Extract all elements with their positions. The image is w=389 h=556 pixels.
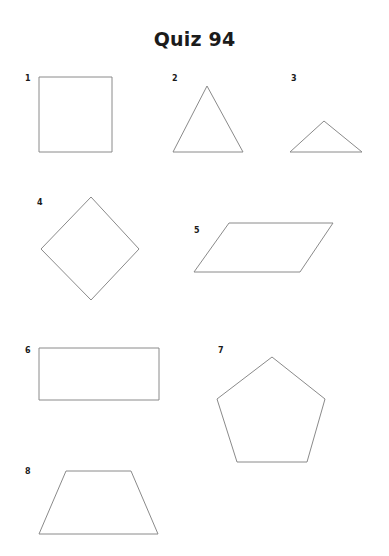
shape-square	[39, 77, 112, 152]
shape-triangle-equilateral	[173, 86, 243, 152]
shape-number-label-5: 5	[194, 227, 200, 235]
shape-number-label-6: 6	[25, 347, 31, 355]
shape-rhombus-diamond	[41, 197, 139, 300]
shape-number-label-1: 1	[25, 75, 31, 83]
shape-rectangle	[39, 348, 159, 400]
shape-number-label-8: 8	[25, 468, 31, 476]
shape-number-label-2: 2	[172, 75, 178, 83]
quiz-worksheet: Quiz 94 1 2 3 4 5 6 7 8	[0, 0, 389, 556]
shape-canvas	[0, 0, 389, 556]
shape-number-label-3: 3	[291, 75, 297, 83]
shape-parallelogram	[194, 223, 333, 272]
shape-trapezoid	[39, 471, 158, 534]
shape-pentagon	[217, 357, 325, 462]
shape-triangle-obtuse-wide	[290, 121, 362, 152]
shape-number-label-7: 7	[218, 347, 224, 355]
shape-number-label-4: 4	[37, 199, 43, 207]
